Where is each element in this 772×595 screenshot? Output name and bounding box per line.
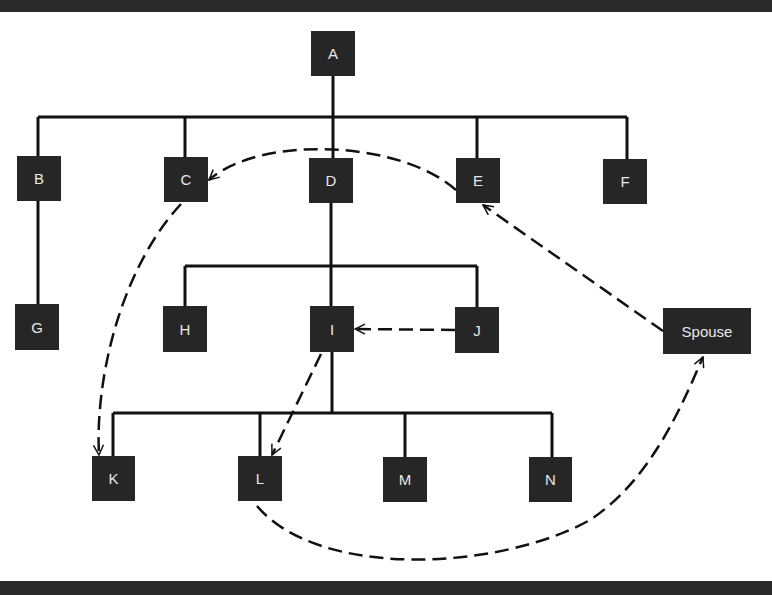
node-g: G	[15, 304, 59, 350]
node-label: B	[34, 170, 44, 187]
node-a: A	[311, 31, 355, 76]
arrow-j-to-i	[355, 329, 455, 330]
node-label: Spouse	[682, 323, 733, 340]
node-k: K	[92, 456, 135, 501]
node-label: J	[473, 322, 481, 339]
node-l: L	[238, 456, 282, 501]
node-f: F	[603, 159, 647, 204]
node-label: L	[256, 470, 264, 487]
node-b: B	[17, 156, 61, 201]
node-label: E	[473, 172, 483, 189]
node-e: E	[456, 158, 500, 203]
bottom-frame-bar	[0, 581, 772, 595]
node-label: H	[180, 321, 191, 338]
arrow-i-to-l	[272, 354, 321, 455]
node-m: M	[383, 457, 427, 502]
arrow-l-to-spouse	[257, 357, 703, 560]
node-label: K	[108, 470, 118, 487]
node-n: N	[529, 457, 572, 502]
node-label: M	[399, 471, 412, 488]
node-label: I	[330, 321, 334, 338]
node-c: C	[164, 157, 208, 202]
node-h: H	[163, 306, 207, 352]
node-i: I	[310, 306, 354, 352]
node-label: G	[31, 319, 43, 336]
node-label: D	[326, 172, 337, 189]
edges-layer	[0, 0, 772, 595]
node-spouse: Spouse	[663, 308, 751, 354]
arrow-spouse-to-e	[483, 205, 663, 331]
node-label: C	[181, 171, 192, 188]
node-d: D	[309, 158, 353, 203]
solid-hierarchy-lines	[38, 76, 627, 457]
node-label: N	[545, 471, 556, 488]
node-label: F	[620, 173, 629, 190]
node-label: A	[328, 45, 338, 62]
node-j: J	[455, 307, 499, 353]
